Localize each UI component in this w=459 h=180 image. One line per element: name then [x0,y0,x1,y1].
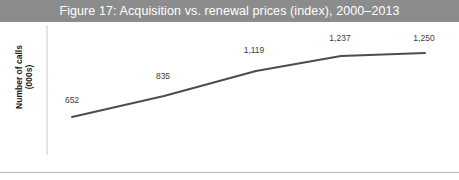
y-axis-title-text: Number of calls (000s) [14,45,34,109]
bottom-divider [0,172,459,173]
figure-title-bar: Figure 17: Acquisition vs. renewal price… [0,0,459,22]
data-point-label: 652 [65,95,79,105]
figure-container: Figure 17: Acquisition vs. renewal price… [0,0,459,180]
y-axis-title: Number of calls (000s) [13,25,35,129]
data-point-label: 835 [156,71,170,81]
y-axis-title-line1: Number of calls [14,45,24,109]
data-series-line [72,53,425,117]
y-axis-title-line2: (000s) [24,45,34,109]
data-point-label: 1,119 [244,45,265,55]
data-point-label: 1,250 [413,33,434,43]
data-point-label: 1,237 [329,33,350,43]
figure-title: Figure 17: Acquisition vs. renewal price… [0,0,459,22]
